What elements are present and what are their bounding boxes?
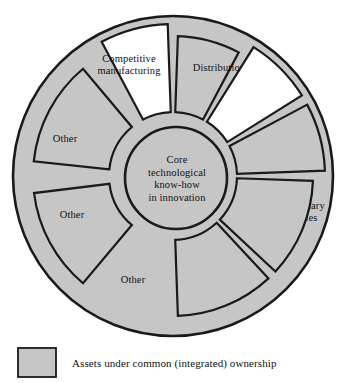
legend-label: Assets under common (integrated) ownersh… [72, 357, 277, 370]
core-circle [125, 127, 227, 229]
segment-label-other-left-lower: Other [60, 209, 85, 220]
legend-swatch [18, 348, 56, 377]
diagram-root: CompetitivemanufacturingDistributionServ… [0, 0, 350, 383]
segment-label-other-lower-left: Other [121, 274, 146, 285]
legend-group: Assets under common (integrated) ownersh… [18, 348, 277, 377]
segment-label-competitive-manufacturing: Competitivemanufacturing [97, 53, 161, 77]
radial-diagram-svg: CompetitivemanufacturingDistributionServ… [0, 0, 350, 383]
segment-label-other-left-upper: Other [53, 133, 78, 144]
